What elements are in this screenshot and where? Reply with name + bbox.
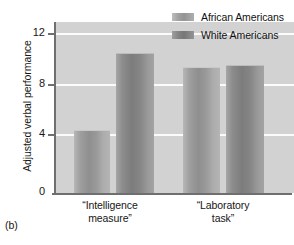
y-tick-label-8: 8 [0,78,45,89]
y-axis-title: Adjusted verbal performance [21,16,33,196]
legend: African Americans White Americans [172,9,284,45]
plot-area: African Americans White Americans [54,22,294,193]
x-category-label-line2: measure” [55,212,165,225]
bar-african-americans-intelligence-measure [74,130,110,193]
legend-swatch-african-americans-icon [172,13,194,21]
bar-white-americans-laboratory-task [226,65,264,193]
legend-label-white-americans: White Americans [201,29,278,41]
legend-item-african-americans: African Americans [172,9,284,24]
bar-chart-figure: Adjusted verbal performance (b) 12 8 4 0… [0,0,294,245]
bar-white-americans-intelligence-measure [116,53,154,193]
panel-letter: (b) [5,219,18,231]
bar-african-americans-laboratory-task [183,67,220,193]
y-tick-label-12: 12 [0,27,45,38]
y-tick-label-0: 0 [0,186,45,197]
x-category-label-laboratory-task: “Laboratory task” [168,199,278,224]
x-axis-line [52,193,292,195]
x-category-label-line1: “Laboratory [168,199,278,212]
legend-swatch-white-americans-icon [172,31,194,39]
legend-item-white-americans: White Americans [172,27,284,42]
plot-inner [56,22,294,193]
legend-label-african-americans: African Americans [201,11,284,23]
x-category-label-line1: “Intelligence [55,199,165,212]
y-tick-label-4: 4 [0,128,45,139]
x-category-label-intelligence-measure: “Intelligence measure” [55,199,165,224]
x-category-label-line2: task” [168,212,278,225]
